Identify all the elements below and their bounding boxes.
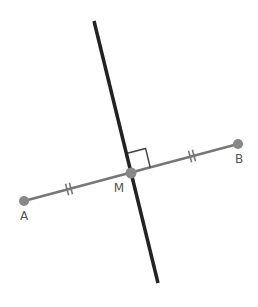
perpendicular-bisector-diagram: A B M <box>0 0 258 307</box>
point-b <box>233 139 243 149</box>
point-a <box>19 196 29 206</box>
perpendicular-bisector-line <box>94 21 158 283</box>
point-m-midpoint <box>126 168 137 179</box>
label-m: M <box>114 181 124 195</box>
label-b: B <box>235 152 243 166</box>
label-a: A <box>20 209 29 223</box>
